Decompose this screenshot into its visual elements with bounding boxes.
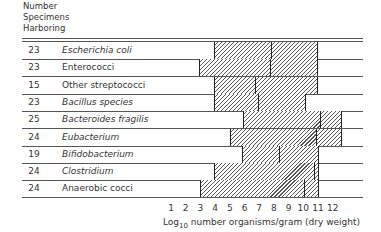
range-bar-lower (214, 163, 315, 180)
specimen-count: 25 (22, 114, 46, 124)
table-row: 24Eubacterium (0, 129, 381, 146)
x-tick-label: 2 (183, 203, 189, 213)
row-divider (22, 197, 363, 198)
x-tick-label: 11 (312, 203, 323, 213)
x-tick-label: 7 (256, 203, 262, 213)
table-row: 23Escherichia coli (0, 42, 381, 59)
top-rule (22, 38, 363, 39)
range-bar-upper (256, 77, 318, 94)
x-tick-label: 9 (286, 203, 292, 213)
range-bar-upper (305, 180, 320, 197)
table-row: 23Enterococci (0, 59, 381, 76)
organism-name: Eubacterium (62, 132, 119, 142)
table-row: 19Bifidobacterium (0, 146, 381, 163)
x-tick-label: 4 (212, 203, 218, 213)
specimen-count: 15 (22, 80, 46, 90)
x-tick-label: 3 (198, 203, 204, 213)
range-bar-lower (214, 42, 273, 59)
x-tick-label: 6 (242, 203, 248, 213)
range-bar-lower (214, 94, 260, 111)
range-bar-upper (272, 42, 318, 59)
range-bar-lower (242, 146, 280, 163)
x-tick-label: 1 (168, 203, 174, 213)
table-row: 25Bacteroides fragilis (0, 111, 381, 128)
range-bar-upper (321, 111, 342, 128)
specimen-count: 24 (22, 132, 46, 142)
x-tick-label: 8 (271, 203, 277, 213)
organism-name: Anaerobic cocci (62, 183, 133, 193)
range-bar-lower (200, 180, 304, 197)
specimen-count: 23 (22, 45, 46, 55)
range-bar-upper (259, 94, 306, 111)
x-tick-label: 5 (227, 203, 233, 213)
range-bar-upper (317, 129, 342, 146)
range-bar-upper (271, 59, 318, 76)
x-tick-label: 12 (327, 203, 338, 213)
organism-name: Bacillus species (62, 97, 133, 107)
table-row: 23Bacillus species (0, 94, 381, 111)
x-axis-label: Log10 number organisms/gram (dry weight) (163, 217, 360, 230)
header-line: Number (23, 1, 69, 12)
organism-name: Enterococci (62, 62, 114, 72)
organism-name: Other streptococci (62, 80, 145, 90)
header-line: Harboring (23, 23, 69, 34)
range-bar-upper (315, 163, 319, 180)
organism-name: Clostridium (62, 166, 113, 176)
table-row: 24Clostridium (0, 163, 381, 180)
table-row: 24Anaerobic cocci (0, 180, 381, 197)
organism-name: Escherichia coli (62, 45, 132, 55)
specimen-count: 24 (22, 183, 46, 193)
x-tick-label: 10 (298, 203, 309, 213)
specimen-count: 19 (22, 149, 46, 159)
range-bar-lower (214, 77, 257, 94)
table-row: 15Other streptococci (0, 77, 381, 94)
organism-name: Bacteroides fragilis (62, 114, 149, 124)
header-line: Specimens (23, 12, 69, 23)
range-bar-lower (243, 111, 321, 128)
range-bar-lower (230, 129, 317, 146)
specimen-count: 23 (22, 97, 46, 107)
specimen-count: 23 (22, 62, 46, 72)
organism-name: Bifidobacterium (62, 149, 134, 159)
range-bar-upper (280, 146, 320, 163)
column-header: Number Specimens Harboring (23, 1, 69, 34)
range-bar-lower (199, 59, 271, 76)
specimen-count: 24 (22, 166, 46, 176)
